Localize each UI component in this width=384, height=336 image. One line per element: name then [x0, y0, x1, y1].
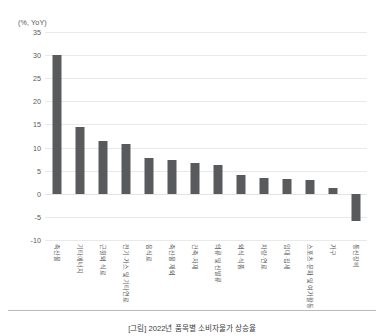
x-axis-tick-label: 임대·집세: [283, 244, 290, 270]
bar[interactable]: [328, 188, 337, 194]
y-axis-tick-label: 25: [17, 74, 41, 83]
y-axis-tick-label: 30: [17, 51, 41, 60]
bar-slot[interactable]: [321, 32, 344, 240]
y-axis-tick-label: 10: [17, 143, 41, 152]
bar-slot[interactable]: [298, 32, 321, 240]
y-axis-tick-label: 15: [17, 120, 41, 129]
y-axis-tick-label: 20: [17, 97, 41, 106]
x-axis-tick-label: 가구: [329, 244, 336, 256]
bar-slot[interactable]: [252, 32, 275, 240]
x-axis-tick-label: 축산물 제외: [168, 244, 175, 276]
x-axis-label-slot: 통신장비: [344, 242, 367, 304]
x-axis-tick-label: 통신장비: [352, 244, 359, 268]
y-axis-tick-label: 5: [17, 166, 41, 175]
bar[interactable]: [351, 194, 360, 222]
bar[interactable]: [259, 178, 268, 194]
gridline: -10: [45, 240, 367, 241]
x-axis-label-slot: 건축·자재: [183, 242, 206, 304]
x-axis-tick-label: 외식·식품: [237, 244, 244, 270]
x-axis-label-slot: 차량·연료: [252, 242, 275, 304]
bar[interactable]: [52, 55, 61, 194]
bar[interactable]: [75, 127, 84, 194]
bar-slot[interactable]: [183, 32, 206, 240]
y-axis-tick-label: -5: [17, 212, 41, 221]
bar-slot[interactable]: [114, 32, 137, 240]
x-axis-label-slot: 가구: [321, 242, 344, 304]
x-axis-tick-label: 근원외 식료: [99, 244, 106, 276]
bar[interactable]: [236, 175, 245, 194]
plot-region: 35302520151050-5-10: [45, 32, 367, 240]
x-axis-tick-label: 기타에너지: [76, 244, 83, 274]
x-axis-label-slot: 축산물: [45, 242, 68, 304]
bar[interactable]: [190, 163, 199, 194]
bar[interactable]: [121, 144, 130, 193]
x-axis-tick-label: 전기·가스 및 기타연료: [122, 244, 129, 304]
x-axis-label-slot: 외식·식품: [229, 242, 252, 304]
y-axis-tick-label: 0: [17, 189, 41, 198]
bar-slot[interactable]: [344, 32, 367, 240]
x-axis-tick-label: 차량·연료: [260, 244, 267, 270]
bar[interactable]: [305, 180, 314, 194]
bar[interactable]: [167, 160, 176, 194]
bar[interactable]: [213, 165, 222, 194]
bar-slot[interactable]: [91, 32, 114, 240]
bar-slot[interactable]: [229, 32, 252, 240]
x-axis-label-slot: 축산물 제외: [160, 242, 183, 304]
y-axis-tick-label: -10: [17, 236, 41, 245]
x-axis-label-slot: 전기·가스 및 기타연료: [114, 242, 137, 304]
figure-caption: [그림] 2022년 품목별 소비자물가 상승율: [0, 322, 384, 333]
chart-area: (%, YoY) 35302520151050-5-10 축산물기타에너지근원외…: [12, 8, 374, 304]
bar-slot[interactable]: [206, 32, 229, 240]
x-axis-labels-group: 축산물기타에너지근원외 식료전기·가스 및 기타연료음식료축산물 제외건축·자재…: [45, 242, 367, 304]
x-axis-label-slot: 기타에너지: [68, 242, 91, 304]
x-axis-tick-label: 건축·자재: [191, 244, 198, 270]
bar-slot[interactable]: [68, 32, 91, 240]
y-axis-tick-label: 35: [17, 28, 41, 37]
bar[interactable]: [144, 158, 153, 194]
x-axis-tick-label: 스포츠·문화 및 여가활동: [306, 244, 313, 310]
x-axis-label-slot: 임대·집세: [275, 242, 298, 304]
x-axis-tick-label: 음식료: [145, 244, 152, 262]
x-axis-tick-label: 축산물: [53, 244, 60, 262]
x-axis-label-slot: 스포츠·문화 및 여가활동: [298, 242, 321, 304]
x-axis-tick-label: 의류 및 신발류: [214, 244, 221, 283]
bar[interactable]: [98, 141, 107, 194]
bar-slot[interactable]: [160, 32, 183, 240]
x-axis-label-slot: 근원외 식료: [91, 242, 114, 304]
caption-divider: [8, 310, 376, 311]
bar-slot[interactable]: [45, 32, 68, 240]
x-axis-label-slot: 의류 및 신발류: [206, 242, 229, 304]
bars-group: [45, 32, 367, 240]
figure-container: (%, YoY) 35302520151050-5-10 축산물기타에너지근원외…: [0, 0, 384, 336]
bar-slot[interactable]: [275, 32, 298, 240]
y-axis-unit-label: (%, YoY): [18, 18, 47, 27]
bar-slot[interactable]: [137, 32, 160, 240]
bar[interactable]: [282, 179, 291, 194]
x-axis-label-slot: 음식료: [137, 242, 160, 304]
